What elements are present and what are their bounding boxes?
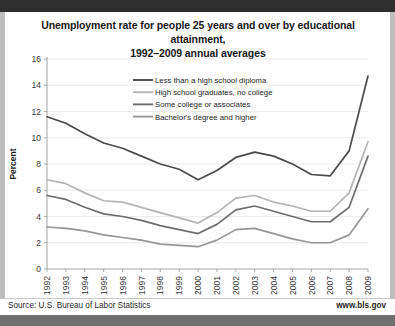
x-tick-label: 1993: [61, 276, 71, 295]
y-axis-title-group: Percent: [8, 148, 18, 179]
bottom-border-band: [0, 315, 395, 326]
y-tick-label: 8: [36, 159, 41, 169]
x-tick-label: 1998: [155, 276, 165, 295]
x-tick-label: 1997: [137, 276, 147, 295]
y-tick-label: 6: [36, 185, 41, 195]
x-tick-label: 1995: [99, 276, 109, 295]
x-tick-label: 2004: [269, 276, 279, 295]
chart-card: Unemployment rate for people 25 years an…: [0, 0, 395, 326]
x-tick-label: 1999: [174, 276, 184, 295]
series-line-2: [47, 156, 368, 233]
y-tick-label: 12: [32, 107, 42, 117]
x-tick-label: 2001: [212, 276, 222, 295]
line-chart-svg: 0246810121416 19921993199419951996199719…: [0, 0, 395, 326]
y-axis-ticks-group: 0246810121416: [32, 54, 47, 274]
chart-footer: Source: U.S. Bureau of Labor Statistics …: [0, 299, 395, 315]
website-label: www.bls.gov: [336, 301, 386, 310]
x-tick-label: 2006: [307, 276, 317, 295]
y-tick-label: 10: [32, 133, 42, 143]
y-tick-label: 14: [32, 80, 42, 90]
legend: Less than a high school diplomaHigh scho…: [133, 76, 272, 122]
y-tick-label: 4: [36, 212, 41, 222]
legend-label-1: High school graduates, no college: [155, 88, 272, 97]
y-tick-label: 2: [36, 238, 41, 248]
plot-area: 0246810121416 19921993199419951996199719…: [0, 0, 395, 326]
x-tick-label: 2002: [231, 276, 241, 295]
legend-label-3: Bachelor's degree and higher: [155, 113, 257, 122]
y-tick-label: 0: [36, 264, 41, 274]
x-tick-label: 2009: [363, 276, 373, 295]
series-line-3: [47, 209, 368, 247]
x-tick-label: 2003: [250, 276, 260, 295]
source-label: Source: U.S. Bureau of Labor Statistics: [8, 301, 150, 310]
x-tick-label: 1994: [80, 276, 90, 295]
x-tick-label: 2005: [288, 276, 298, 295]
x-tick-label: 2007: [325, 276, 335, 295]
x-tick-label: 1992: [42, 276, 52, 295]
legend-label-0: Less than a high school diploma: [155, 76, 267, 85]
x-tick-label: 1996: [118, 276, 128, 295]
gridlines-group: [47, 59, 368, 243]
y-axis-title: Percent: [8, 148, 18, 179]
x-tick-label: 2000: [193, 276, 203, 295]
legend-label-2: Some college or associates: [155, 100, 250, 109]
x-axis-ticks-group: 1992199319941995199619971998199920002001…: [42, 269, 373, 295]
x-tick-label: 2008: [344, 276, 354, 295]
y-tick-label: 16: [32, 54, 42, 64]
